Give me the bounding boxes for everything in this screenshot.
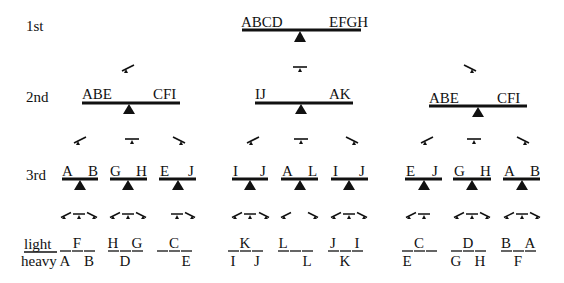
- row-label-3rd: 3rd: [26, 167, 46, 183]
- fulcrum-icon: [466, 180, 478, 190]
- balance-weighing-3-4: I J: [232, 163, 268, 190]
- pan-left-label: E: [160, 163, 169, 179]
- pan-left-label: IJ: [255, 86, 266, 102]
- pan-left-label: E: [406, 163, 415, 179]
- light-coin-label: K: [240, 235, 251, 251]
- pan-left-label: ABCD: [241, 14, 283, 30]
- outcome-left-down-icon: [454, 213, 464, 220]
- heavy-coin-label: H: [475, 253, 486, 269]
- outcome-left-down-icon: [232, 213, 242, 220]
- outcome-left-down-icon: [504, 213, 514, 220]
- light-coin-label: G: [132, 235, 143, 251]
- outcome-left-down-icon: [281, 213, 291, 220]
- outcome-balanced-icon: [293, 67, 307, 72]
- heavy-coin-label: E: [181, 253, 190, 269]
- outcome-group: AFB: [60, 235, 95, 269]
- outcome-right-down-icon: [480, 213, 490, 220]
- outcome-group: GDH: [451, 235, 486, 269]
- outcome-group: EC: [402, 235, 437, 269]
- light-coin-label: I: [355, 235, 360, 251]
- balance-weighing-2-middle: IJ AK: [255, 86, 353, 114]
- heavy-coin-label: A: [60, 253, 71, 269]
- outcome-icons-row-3: [61, 213, 540, 220]
- pan-left-label: G: [454, 163, 465, 179]
- pan-right-label: B: [530, 163, 540, 179]
- row-label-light: light: [24, 236, 52, 252]
- fulcrum-icon: [123, 104, 135, 114]
- pan-left-label: ABE: [429, 90, 459, 106]
- balance-weighing-3-3: E J: [159, 163, 196, 190]
- fulcrum-icon: [516, 180, 528, 190]
- pan-left-label: A: [282, 163, 293, 179]
- outcome-balanced-icon: [73, 214, 85, 219]
- fulcrum-icon: [74, 180, 86, 190]
- outcome-balanced-icon: [516, 214, 528, 219]
- heavy-coin-label: B: [84, 253, 94, 269]
- fulcrum-icon: [172, 180, 184, 190]
- outcome-balanced-icon: [294, 139, 308, 144]
- fulcrum-icon: [294, 180, 306, 190]
- outcome-group: IKJ: [228, 235, 263, 269]
- outcome-left-down-icon: [122, 65, 134, 73]
- weighing-decision-tree: 1st 2nd 3rd light heavy ABCD EFGH ABE CF…: [0, 0, 564, 283]
- outcome-right-down-icon: [87, 213, 97, 220]
- final-outcomes: AFBHDGCEIKJLLJKIECGDHBFA: [60, 235, 536, 269]
- outcome-left-down-icon: [331, 213, 341, 220]
- pan-left-label: A: [62, 163, 73, 179]
- outcome-balanced-icon: [122, 214, 134, 219]
- heavy-coin-label: I: [231, 253, 236, 269]
- outcome-balanced-icon: [466, 214, 478, 219]
- outcome-left-down-icon: [247, 137, 259, 145]
- outcome-right-down-icon: [308, 213, 318, 220]
- balance-weighing-3-6: I J: [331, 163, 368, 190]
- fulcrum-icon: [418, 180, 430, 190]
- heavy-coin-label: E: [402, 253, 411, 269]
- outcome-balanced-icon: [171, 214, 183, 219]
- heavy-coin-label: K: [340, 253, 351, 269]
- outcome-right-down-icon: [357, 213, 367, 220]
- outcome-right-down-icon: [259, 213, 269, 220]
- pan-right-label: EFGH: [329, 14, 368, 30]
- balance-weighing-3-5: A L: [281, 163, 318, 190]
- light-coin-label: C: [414, 235, 424, 251]
- outcome-group: JKI: [328, 235, 363, 269]
- outcome-group: LL: [278, 235, 313, 269]
- outcome-group: BFA: [501, 235, 536, 269]
- outcome-right-down-icon: [464, 65, 476, 73]
- pan-right-label: B: [88, 163, 98, 179]
- outcome-right-down-icon: [185, 213, 195, 220]
- pan-right-label: J: [260, 163, 266, 179]
- row-label-2nd: 2nd: [26, 89, 49, 105]
- pan-right-label: H: [480, 163, 491, 179]
- light-coin-label: B: [501, 235, 511, 251]
- pan-right-label: AK: [329, 86, 351, 102]
- light-coin-label: D: [463, 235, 474, 251]
- pan-left-label: I: [333, 163, 338, 179]
- heavy-coin-label: J: [254, 253, 260, 269]
- light-coin-label: H: [108, 235, 119, 251]
- pan-left-label: ABE: [82, 86, 112, 102]
- pan-right-label: J: [359, 163, 365, 179]
- row-label-heavy: heavy: [21, 253, 57, 269]
- outcome-left-down-icon: [74, 137, 86, 145]
- outcome-left-down-icon: [406, 213, 416, 220]
- fulcrum-icon: [472, 107, 484, 117]
- pan-right-label: CFI: [497, 90, 520, 106]
- pan-left-label: G: [110, 163, 121, 179]
- outcome-group: CE: [157, 235, 192, 269]
- heavy-coin-label: G: [451, 253, 462, 269]
- outcome-balanced-icon: [418, 214, 430, 219]
- row-label-1st: 1st: [26, 18, 44, 34]
- balance-weighing-2-left: ABE CFI: [82, 86, 180, 114]
- outcome-right-down-icon: [517, 137, 529, 145]
- outcome-left-down-icon: [61, 213, 71, 220]
- light-coin-label: A: [525, 235, 536, 251]
- outcome-right-down-icon: [346, 137, 358, 145]
- outcome-balanced-icon: [244, 214, 256, 219]
- outcome-group: HDG: [108, 235, 143, 269]
- fulcrum-icon: [295, 104, 307, 114]
- outcome-icons-row-2: [74, 137, 529, 145]
- heavy-coin-label: D: [120, 253, 131, 269]
- pan-left-label: I: [233, 163, 238, 179]
- balance-weighing-1: ABCD EFGH: [241, 14, 368, 42]
